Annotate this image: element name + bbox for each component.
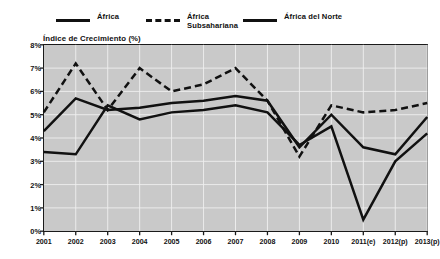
x-tick-label: 2013(p) [415, 238, 440, 246]
plot-area [43, 44, 428, 232]
legend-label-africa-subsahariana: África Subsahariana [187, 13, 238, 30]
x-tick-label: 2011(e) [351, 238, 375, 246]
x-tick-label: 2010 [323, 238, 339, 246]
x-tick-label: 2006 [196, 238, 212, 246]
legend-line-solid-icon [56, 19, 90, 22]
y-tick-label: 3% [1, 157, 41, 166]
x-tick-label: 2001 [36, 238, 52, 246]
x-tick-label: 2009 [292, 238, 308, 246]
y-axis-title: Índice de Crecimiento (%) [43, 34, 141, 43]
y-tick-label: 5% [1, 111, 41, 120]
y-tick-label: 6% [1, 87, 41, 96]
y-tick-label: 0% [1, 227, 41, 236]
y-tick-label: 4% [1, 134, 41, 143]
x-tick-label: 2004 [132, 238, 148, 246]
y-tick-label: 7% [1, 64, 41, 73]
legend-item-africa-subsahariana: África Subsahariana [146, 13, 238, 30]
x-tick-label: 2002 [68, 238, 84, 246]
legend-item-africa-del-norte: África del Norte [243, 13, 342, 22]
x-tick-label: 2007 [228, 238, 244, 246]
x-tick-label: 2012(p) [383, 238, 408, 246]
y-tick-label: 2% [1, 181, 41, 190]
legend-label-africa: África [97, 13, 119, 22]
x-tick-label: 2005 [164, 238, 180, 246]
legend-line-solid-icon [243, 19, 277, 22]
y-tick-label: 1% [1, 204, 41, 213]
x-tick-label: 2003 [100, 238, 116, 246]
y-tick-label: 8% [1, 41, 41, 50]
legend-line-dashed-icon [146, 19, 180, 22]
legend-label-africa-del-norte: África del Norte [284, 13, 342, 22]
chart-legend: África África Subsahariana África del No… [0, 10, 436, 36]
x-axis-ticks: 2001200220032004200520062007200820092010… [0, 236, 436, 252]
y-axis-ticks: 0%1%2%3%4%5%6%7%8% [0, 0, 41, 259]
legend-item-africa: África [56, 13, 119, 22]
x-tick-label: 2008 [260, 238, 276, 246]
